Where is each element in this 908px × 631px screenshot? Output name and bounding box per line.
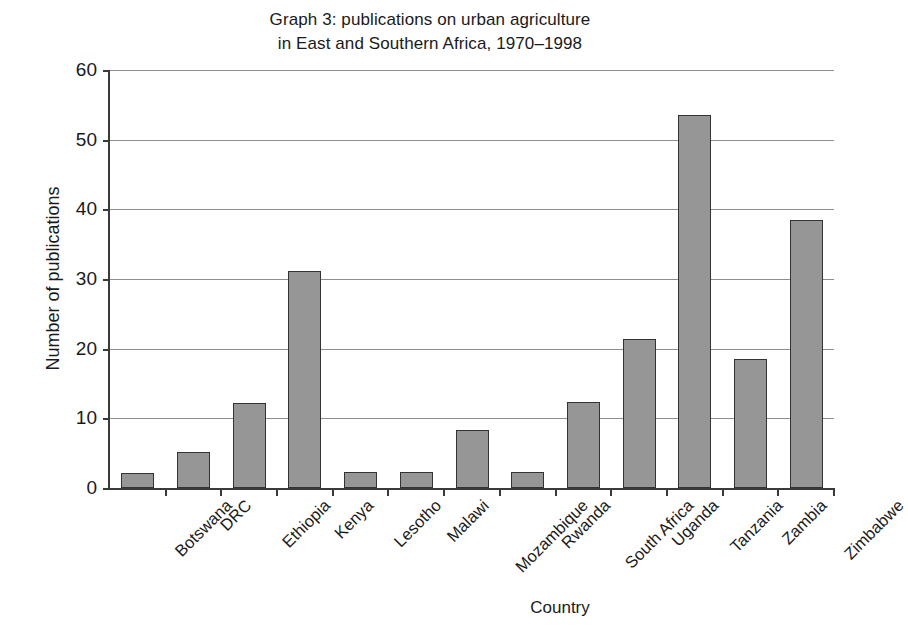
y-tick-label-30: 30 — [76, 268, 97, 290]
bar-zambia — [734, 359, 767, 488]
y-tick-mark-0 — [103, 488, 110, 490]
y-tick-label-40: 40 — [76, 198, 97, 220]
x-category-label-ethiopia: Ethiopia — [279, 496, 335, 552]
y-tick-label-0: 0 — [86, 477, 97, 499]
x-category-label-lesotho: Lesotho — [390, 496, 445, 551]
y-tick-label-20: 20 — [76, 338, 97, 360]
bar-mozambique — [456, 430, 489, 488]
x-tick-mark-12 — [833, 488, 835, 496]
y-tick-mark-60 — [103, 70, 110, 72]
x-tick-mark-10 — [722, 488, 724, 496]
y-tick-label-10: 10 — [76, 407, 97, 429]
chart-title-line-1: Graph 3: publications on urban agricultu… — [130, 8, 730, 32]
x-tick-mark-6 — [499, 488, 501, 496]
x-tick-mark-11 — [777, 488, 779, 496]
y-axis-title: Number of publications — [43, 129, 64, 429]
x-category-label-kenya: Kenya — [331, 496, 378, 543]
x-tick-mark-5 — [443, 488, 445, 496]
x-axis-title: Country — [430, 598, 690, 618]
x-category-label-zambia: Zambia — [779, 496, 831, 548]
y-tick-mark-50 — [103, 140, 110, 142]
bar-lesotho — [344, 472, 377, 488]
y-tick-mark-20 — [103, 349, 110, 351]
y-tick-label-60: 60 — [76, 59, 97, 81]
bar-malawi — [400, 472, 433, 488]
x-tick-mark-7 — [555, 488, 557, 496]
chart-title: Graph 3: publications on urban agricultu… — [130, 8, 730, 56]
x-tick-mark-9 — [666, 488, 668, 496]
x-category-label-malawi: Malawi — [443, 496, 493, 546]
bar-kenya — [288, 271, 321, 488]
bar-south-africa — [567, 402, 600, 488]
bar-drc — [177, 452, 210, 488]
x-tick-mark-0 — [165, 488, 167, 496]
y-tick-mark-40 — [103, 209, 110, 211]
x-category-label-zimbabwe: Zimbabwe — [840, 496, 907, 563]
x-category-label-tanzania: Tanzania — [726, 496, 786, 556]
x-tick-mark-8 — [610, 488, 612, 496]
bar-zimbabwe — [790, 220, 823, 488]
bar-tanzania — [678, 115, 711, 488]
chart-title-line-2: in East and Southern Africa, 1970–1998 — [130, 32, 730, 56]
y-tick-mark-30 — [103, 279, 110, 281]
y-tick-label-50: 50 — [76, 129, 97, 151]
bar-botswana — [121, 473, 154, 488]
x-tick-mark-2 — [276, 488, 278, 496]
bar-series — [110, 70, 834, 488]
bar-ethiopia — [233, 403, 266, 488]
x-tick-mark-3 — [332, 488, 334, 496]
x-tick-mark-4 — [387, 488, 389, 496]
y-tick-mark-10 — [103, 418, 110, 420]
bar-rwanda — [511, 472, 544, 488]
x-axis-category-labels: BotswanaDRCEthiopiaKenyaLesothoMalawiMoz… — [108, 496, 832, 596]
bar-uganda — [623, 339, 656, 488]
plot-area: 0102030405060 — [108, 70, 834, 490]
